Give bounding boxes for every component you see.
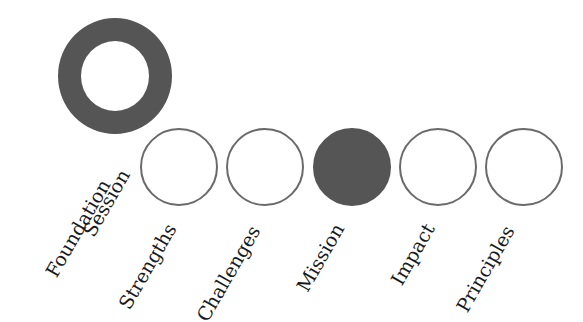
step-label-challenges: Challenges (192, 222, 265, 322)
step-label-mission: Mission (292, 220, 348, 296)
step-circle-mission (313, 128, 391, 206)
step-circle-impact (399, 128, 477, 206)
step-circle-principles (485, 128, 563, 206)
foundation-session-ring (58, 18, 172, 134)
step-circle-strengths (140, 128, 218, 206)
step-label-principles: Principles (451, 222, 518, 316)
step-label-impact: Impact (386, 220, 439, 289)
step-circle-challenges (226, 128, 304, 206)
step-label-strengths: Strengths (114, 220, 181, 313)
